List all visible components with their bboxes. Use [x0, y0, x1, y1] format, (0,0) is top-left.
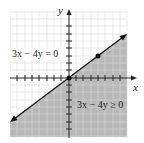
- origin-point: [67, 76, 72, 81]
- region-inequality-label: 3x − 4y ≥ 0: [77, 99, 123, 110]
- line-equation-label: 3x − 4y = 0: [12, 48, 58, 59]
- inequality-graph: 3x − 4y = 0 3x − 4y ≥ 0 y x: [0, 0, 144, 143]
- y-axis-label: y: [57, 4, 63, 16]
- graph-canvas: 3x − 4y = 0 3x − 4y ≥ 0 y x: [0, 0, 144, 143]
- x-axis-arrow-icon: [131, 76, 137, 81]
- point-4-3: [96, 54, 101, 59]
- x-axis-label: x: [132, 81, 138, 93]
